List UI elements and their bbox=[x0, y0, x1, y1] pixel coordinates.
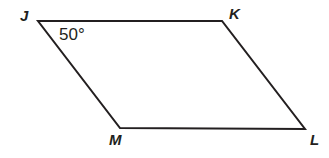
vertex-label-l: L bbox=[310, 132, 319, 147]
angle-measure-label-j: 50° bbox=[59, 26, 85, 43]
parallelogram-shape bbox=[0, 0, 329, 158]
vertex-label-j: J bbox=[20, 8, 28, 23]
vertex-label-m: M bbox=[109, 132, 122, 147]
geometry-diagram: J K L M 50° bbox=[0, 0, 329, 158]
vertex-label-k: K bbox=[229, 6, 240, 21]
